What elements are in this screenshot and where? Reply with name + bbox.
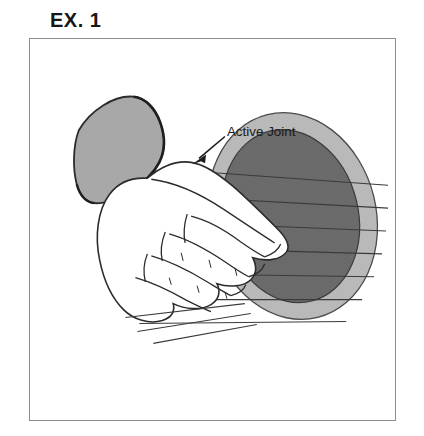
figure-page: EX. 1 — [0, 0, 424, 436]
callout-arrowhead — [192, 154, 206, 164]
figure-frame: Active Joint — [29, 38, 396, 421]
figure-illustration: Active Joint — [30, 39, 395, 420]
callout-label-text: Active Joint — [227, 124, 296, 139]
page-title: EX. 1 — [50, 8, 101, 32]
